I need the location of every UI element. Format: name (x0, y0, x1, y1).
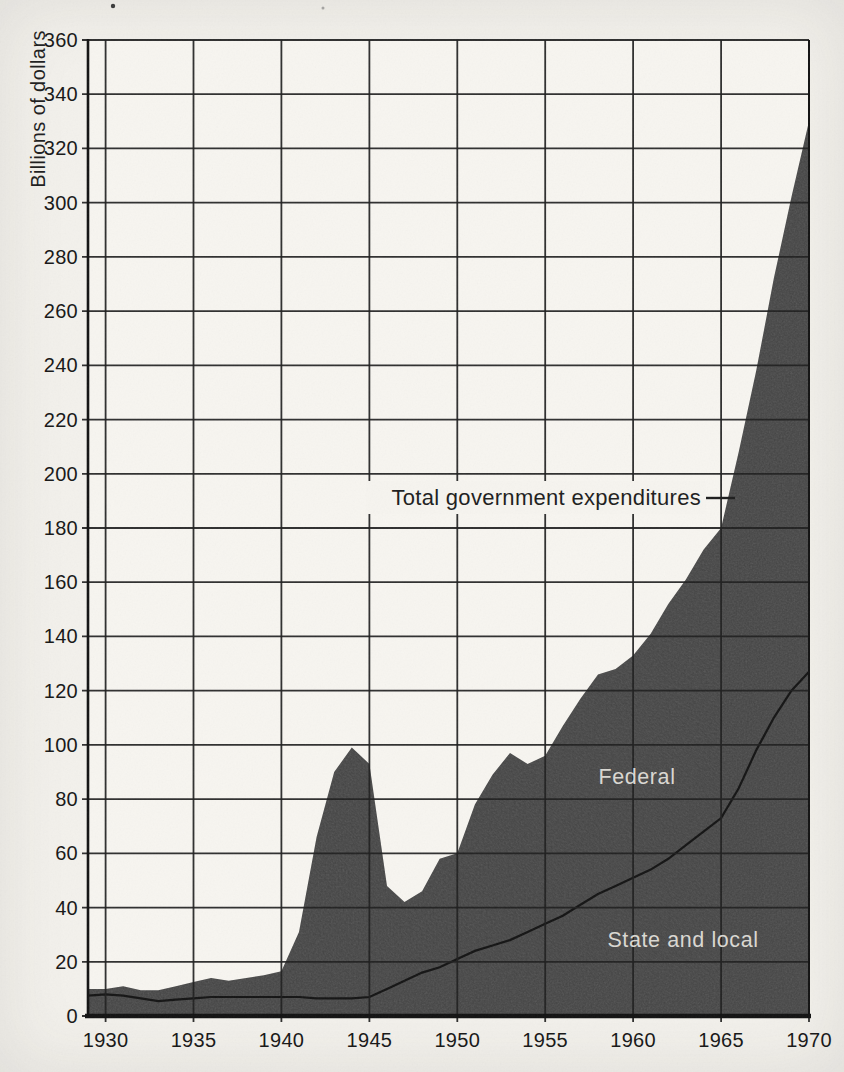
chart: 0204060801001201401601802002202402602803… (0, 0, 844, 1072)
scanned-page: 0204060801001201401601802002202402602803… (0, 0, 844, 1072)
scan-grain-overlay (0, 0, 844, 1072)
